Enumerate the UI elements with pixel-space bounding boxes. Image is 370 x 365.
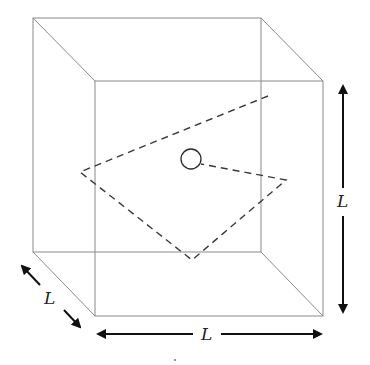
particle-trajectory bbox=[80, 96, 286, 260]
particle bbox=[181, 149, 201, 169]
depth-arrow-upper bbox=[22, 266, 40, 285]
cube-diagram bbox=[0, 0, 370, 365]
cube-edge-top-left bbox=[33, 18, 95, 81]
height-label: L bbox=[335, 193, 350, 210]
depth-label: L bbox=[42, 290, 57, 307]
cube-edge-top-right bbox=[261, 18, 323, 81]
cube-edge-bottom-right bbox=[261, 252, 323, 316]
stray-mark bbox=[174, 359, 176, 361]
width-label: L bbox=[199, 326, 214, 343]
depth-arrow-lower bbox=[64, 310, 80, 327]
